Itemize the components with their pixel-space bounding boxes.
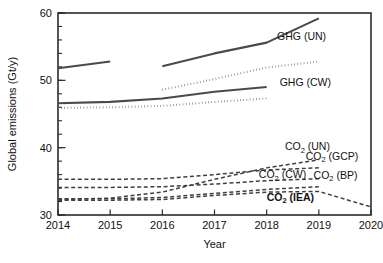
x-tick-label: 2019 bbox=[307, 219, 331, 231]
x-tick-label: 2017 bbox=[202, 219, 226, 231]
x-tick-label: 2018 bbox=[254, 219, 278, 231]
series-line-ghg-un bbox=[58, 61, 110, 68]
plot-frame bbox=[58, 13, 371, 215]
x-tick-label: 2015 bbox=[98, 219, 122, 231]
x-tick-label: 2016 bbox=[150, 219, 174, 231]
y-tick-label: 40 bbox=[40, 142, 52, 154]
series-line-ghg-un bbox=[162, 18, 318, 66]
y-tick-label: 60 bbox=[40, 7, 52, 19]
x-axis-title: Year bbox=[203, 238, 226, 250]
x-tick-label: 2020 bbox=[359, 219, 383, 231]
emissions-chart-figure: 304050602014201520162017201820192020Year… bbox=[0, 0, 383, 263]
series-label-co-iea: CO2 (IEA) bbox=[267, 191, 314, 206]
y-tick-label: 50 bbox=[40, 74, 52, 86]
x-tick-label: 2014 bbox=[46, 219, 70, 231]
series-label-co-gcp: CO2 (GCP) bbox=[306, 150, 359, 165]
chart-canvas: 304050602014201520162017201820192020Year… bbox=[0, 0, 383, 263]
series-label-co-bp: CO2 (BP) bbox=[314, 169, 358, 184]
series-label-ghg-un: GHG (UN) bbox=[277, 30, 326, 42]
series-label-ghg-cw: GHG (CW) bbox=[280, 76, 331, 88]
y-axis-title: Global emissions (Gt/y) bbox=[6, 57, 18, 171]
